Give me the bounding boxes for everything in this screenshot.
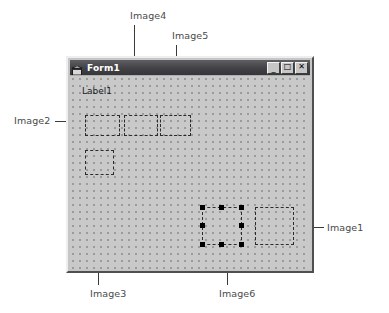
annotation-label-image2: Image2 [14, 115, 50, 126]
minimize-icon: _ [268, 64, 279, 74]
close-button[interactable]: ✕ [295, 62, 308, 74]
control-image2[interactable] [85, 115, 120, 136]
annotation-label-image4: Image4 [130, 10, 166, 21]
close-icon: ✕ [296, 62, 307, 72]
annotation-label-image3: Image3 [90, 288, 126, 299]
vb-form-icon [72, 62, 83, 73]
resize-handle-se[interactable] [239, 242, 244, 247]
maximize-button[interactable]: □ [281, 62, 294, 74]
resize-handle-sw[interactable] [200, 242, 205, 247]
minimize-button[interactable]: _ [267, 62, 280, 74]
control-image4[interactable] [124, 115, 158, 136]
resize-handle-s[interactable] [219, 242, 224, 247]
control-image1[interactable] [255, 207, 294, 245]
resize-handle-ne[interactable] [239, 205, 244, 210]
control-image5[interactable] [160, 115, 191, 136]
control-image6[interactable] [202, 207, 242, 245]
resize-handle-n[interactable] [219, 205, 224, 210]
resize-handle-nw[interactable] [200, 205, 205, 210]
resize-handle-w[interactable] [200, 223, 205, 228]
annotation-label-image1: Image1 [327, 222, 363, 233]
screenshot-root: Image4 Image5 Image2 Image1 Image3 Image… [0, 0, 389, 313]
annotation-label-image5: Image5 [172, 30, 208, 41]
form-design-surface[interactable]: Label1 [70, 75, 310, 269]
control-image3[interactable] [85, 150, 114, 175]
control-label1[interactable]: Label1 [82, 86, 112, 96]
form-title-text: Form1 [87, 63, 266, 73]
annotation-label-image6: Image6 [219, 288, 255, 299]
form-designer-window[interactable]: Form1 _ □ ✕ Label1 [66, 56, 314, 273]
form-title-bar[interactable]: Form1 _ □ ✕ [70, 60, 310, 75]
resize-handle-e[interactable] [239, 223, 244, 228]
maximize-icon: □ [282, 62, 293, 72]
